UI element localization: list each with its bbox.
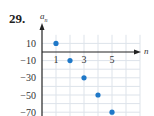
data-point — [95, 92, 100, 97]
data-point — [53, 41, 58, 46]
x-tick-label: 5 — [110, 54, 115, 65]
y-tick-label: 10 — [26, 38, 36, 49]
y-tick-label: −30 — [20, 72, 36, 83]
y-tick-label: −70 — [20, 107, 36, 116]
scatter-plot: 10−10−30−50−70135 — [0, 0, 154, 116]
y-tick-label: −50 — [20, 90, 36, 101]
data-point — [67, 58, 72, 63]
x-tick-label: 3 — [82, 54, 87, 65]
y-axis-arrow-icon — [40, 23, 45, 30]
y-tick-label: −10 — [20, 55, 36, 66]
data-point — [109, 110, 114, 115]
data-point — [81, 75, 86, 80]
x-tick-label: 1 — [54, 54, 59, 65]
